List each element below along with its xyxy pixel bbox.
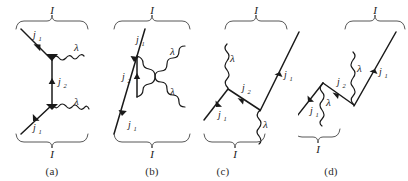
bottom-brace-c [204,134,265,148]
bottom-brace-a [16,134,88,148]
boson-label-bottom-b: λ [169,85,175,97]
propagator-arrow-a [49,78,56,84]
fermion-sublabel-top-a: 1 [39,35,42,42]
propagator-sublabel-d: 2 [343,82,347,89]
diagram-panel-a: I j 1 λ j 2 j 1 λ [0,0,104,181]
fermion-sublabel-top-b: 1 [142,40,145,47]
top-brace-c [225,15,287,29]
panel-caption-d: (d) [276,165,386,177]
propagator-sublabel-c: 2 [248,88,252,95]
fermion-sublabel-incoming-c: 1 [224,115,227,122]
diagram-panel-d: I j 1 λ j 2 λ j 1 I (d) [298,0,408,181]
panel-caption-a: (a) [0,165,104,177]
top-brace-label-a: I [49,4,55,16]
boson-label-bottom-d: λ [325,96,331,108]
boson-label-top-b: λ [169,45,175,57]
diagram-svg-c: I λ j 1 j 2 j 1 λ I [200,0,306,160]
figure-root: I j 1 λ j 2 j 1 λ [0,0,408,181]
top-brace-label-d: I [372,4,378,16]
fermion-label-incoming-d: j [308,105,313,116]
bottom-brace-label-a: I [49,148,55,160]
top-brace-label-b: I [149,4,155,16]
fermion-label-bottom-b: j [126,119,131,130]
boson-wave-bottom-c [257,110,261,144]
boson-wave-top-a [52,55,84,60]
propagator-label-a: j [56,76,61,87]
fermion-sublabel-outgoing-c: 1 [290,75,293,82]
bottom-brace-label-b: I [149,148,155,160]
boson-wave-bottom-d [320,83,324,126]
top-brace-label-c: I [253,4,259,16]
fermion-label-top-b: j [134,34,139,45]
boson-wave-top-b [137,46,185,97]
fermion-sublabel-bottom-b: 1 [134,125,137,132]
bottom-brace-d [298,129,340,143]
boson-label-top-c: λ [229,52,235,64]
boson-label-bottom-c: λ [262,118,268,130]
fermion-line-outgoing-c [260,32,299,111]
boson-wave-bottom-a [52,104,89,109]
boson-label-bottom-a: λ [73,95,79,107]
diagram-svg-b: I j 1 j 1 j 2 λ λ I [104,0,200,160]
diagram-svg-d: I j 1 λ j 2 λ j 1 I [298,0,408,160]
fermion-sublabel-bottom-a: 1 [39,128,42,135]
fermion-sublabel-incoming-d: 1 [316,111,319,118]
bottom-brace-label-d: I [315,143,321,155]
bottom-brace-b [114,134,190,148]
boson-wave-top-d [351,52,355,105]
boson-wave-top-c [225,44,229,88]
fermion-arrow-outgoing-c [275,72,283,77]
fermion-label-outgoing-d: j [377,66,382,77]
propagator-label-d: j [335,76,340,87]
propagator-label-b: j [120,71,125,82]
fermion-label-outgoing-c: j [282,69,287,80]
top-brace-b [114,15,190,29]
fermion-label-incoming-c: j [216,109,221,120]
panel-caption-c: (c) [170,165,276,177]
propagator-sublabel-a: 2 [64,82,68,89]
fermion-arrow-outgoing-d [370,69,378,74]
propagator-label-c: j [240,82,245,93]
top-brace-d [345,15,405,29]
diagram-svg-a: I j 1 λ j 2 j 1 λ [0,0,104,160]
boson-label-top-d: λ [356,62,362,74]
fermion-label-top-a: j [31,29,36,40]
fermion-sublabel-outgoing-d: 1 [385,72,388,79]
propagator-arrow-b [134,73,140,79]
top-brace-a [16,15,88,29]
diagram-panel-b: I j 1 j 1 j 2 λ λ I (b) [104,0,200,181]
fermion-arrow-top-a [34,44,41,51]
diagram-panel-c: I λ j 1 j 2 j 1 λ I (c) [200,0,306,181]
bottom-brace-label-c: I [232,148,238,160]
boson-wave-bottom-b [137,56,185,107]
boson-label-top-a: λ [73,41,79,53]
